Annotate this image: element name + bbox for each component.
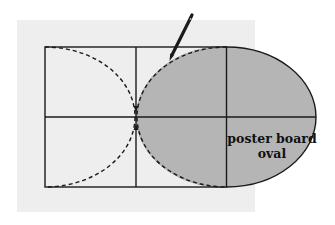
oval-label-line1: poster board (227, 131, 317, 146)
oval-label-line2: oval (258, 146, 287, 161)
poster-board-oval-diagram: poster board oval (0, 0, 335, 225)
